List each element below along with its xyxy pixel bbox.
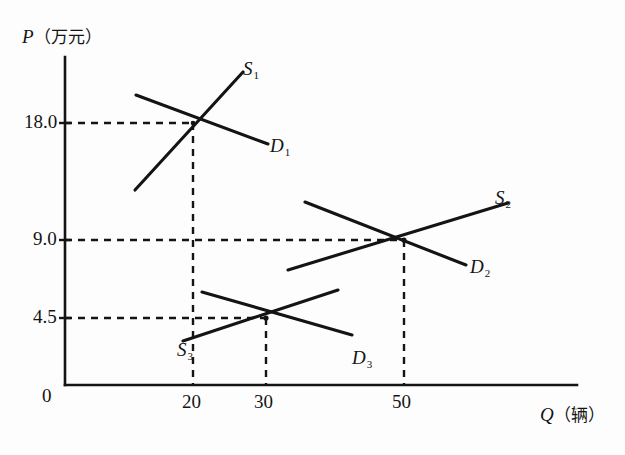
curve-label-d1: D1	[270, 136, 289, 155]
curve-label-s1-sub: 1	[254, 69, 260, 81]
curve-label-d3-name: D	[352, 347, 366, 368]
curve-group-3	[183, 290, 352, 341]
curve-d1	[136, 95, 268, 144]
curve-label-d2: D2	[470, 257, 489, 276]
x-axis-title: Q（辆）	[540, 405, 605, 424]
y-axis-title: P（万元）	[22, 27, 102, 46]
curve-label-d2-name: D	[470, 256, 484, 277]
curve-label-d3: D3	[352, 348, 371, 367]
supply-demand-plot	[0, 0, 625, 455]
curve-label-d2-sub: 2	[485, 267, 491, 279]
figure-canvas: P（万元） Q（辆） 0 18.0 9.0 4.5 20 30 50 S1 D1…	[0, 0, 625, 455]
x-tick-label-30: 30	[254, 392, 273, 411]
y-axis-title-variable: P	[22, 26, 34, 47]
origin-label: 0	[42, 386, 52, 405]
x-axis-title-unit: （辆）	[554, 405, 605, 425]
curve-label-s1: S1	[243, 59, 258, 78]
curve-label-d1-name: D	[270, 135, 284, 156]
equilibrium-point-1	[191, 121, 196, 126]
y-tick-label-9: 9.0	[33, 229, 57, 248]
axis-lines	[65, 57, 577, 385]
curve-label-s2-name: S	[495, 187, 505, 208]
equilibrium-points	[191, 121, 407, 321]
curve-label-d3-sub: 3	[367, 358, 373, 370]
x-tick-label-50: 50	[392, 392, 411, 411]
equilibrium-point-2	[401, 237, 406, 242]
curve-label-s2-sub: 2	[506, 198, 512, 210]
curve-s1	[135, 72, 243, 190]
curve-d2	[305, 202, 466, 265]
x-axis-title-variable: Q	[540, 404, 554, 425]
curve-label-s3: S3	[177, 340, 192, 359]
curve-label-s3-sub: 3	[188, 350, 194, 362]
curve-s3	[183, 290, 338, 341]
x-tick-label-20: 20	[182, 392, 201, 411]
curve-label-s2: S2	[495, 188, 510, 207]
y-tick-label-4-5: 4.5	[33, 307, 57, 326]
y-tick-label-18: 18.0	[24, 112, 57, 131]
equilibrium-point-3	[263, 315, 268, 320]
curve-label-s3-name: S	[177, 339, 187, 360]
curve-group-1	[135, 72, 268, 190]
curve-label-s1-name: S	[243, 58, 253, 79]
curve-label-d1-sub: 1	[285, 146, 291, 158]
y-axis-title-unit: （万元）	[34, 27, 102, 47]
vertical-guide-lines	[193, 123, 404, 385]
